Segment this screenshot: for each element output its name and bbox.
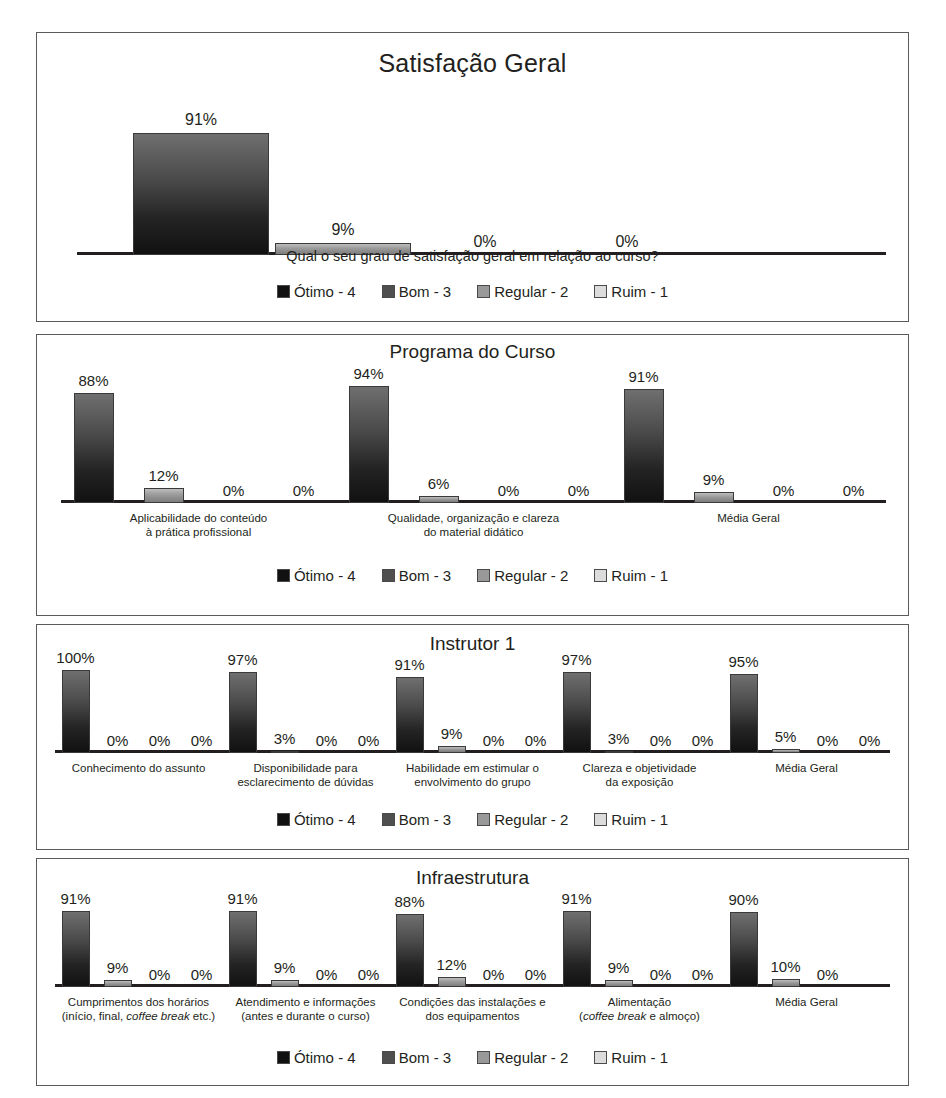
legend-item[interactable]: Ruim - 1 [594, 283, 668, 300]
bar-item: 91% [396, 655, 424, 753]
bar-value-label: 88% [394, 893, 424, 910]
bars: 94%6%0%0% [349, 363, 599, 503]
chart-title: Instrutor 1 [37, 633, 908, 655]
legend-item[interactable]: Regular - 2 [477, 1049, 568, 1066]
bar-item: 97% [229, 655, 257, 753]
bar-value-label: 0% [692, 966, 714, 983]
bar [104, 980, 132, 987]
chart-caption: Qual o seu grau de satisfação geral em r… [37, 248, 908, 264]
legend-item[interactable]: Regular - 2 [477, 811, 568, 828]
legend-item[interactable]: Bom - 3 [382, 567, 452, 584]
legend-label: Ruim - 1 [611, 1049, 668, 1066]
bars: 91%9%0%0% [563, 889, 717, 987]
bar-groups: 91%9%0%0%91%9%0%0%88%12%0%0%91%9%0%0%90%… [55, 889, 890, 987]
bar [229, 672, 257, 753]
legend-label: Ruim - 1 [611, 811, 668, 828]
bar [74, 393, 114, 503]
bar-value-label: 0% [316, 732, 338, 749]
legend-swatch-icon [277, 569, 290, 582]
legend-label: Ótimo - 4 [294, 1049, 356, 1066]
bar [349, 386, 389, 504]
legend-item[interactable]: Ótimo - 4 [277, 1049, 356, 1066]
bar-group: 91%9%0%0% [563, 889, 717, 987]
legend-item[interactable]: Ruim - 1 [594, 567, 668, 584]
bar-group: 94%6%0%0% [349, 363, 599, 503]
bar-value-label: 90% [728, 891, 758, 908]
legend-label: Bom - 3 [399, 811, 452, 828]
legend-item[interactable]: Bom - 3 [382, 1049, 452, 1066]
bar-item: 9% [104, 889, 132, 987]
bar-group: 88%12%0%0% [396, 889, 550, 987]
chart-legend: Ótimo - 4Bom - 3Regular - 2Ruim - 1 [37, 811, 908, 828]
bar-item: 94% [349, 363, 389, 503]
bar-value-label: 12% [148, 467, 178, 484]
legend-item[interactable]: Ótimo - 4 [277, 283, 356, 300]
legend-item[interactable]: Ruim - 1 [594, 1049, 668, 1066]
bar-value-label: 9% [441, 725, 463, 742]
bar-item: 0% [814, 655, 842, 753]
bar [624, 389, 664, 503]
bar-item: 9% [271, 889, 299, 987]
bar-group: 90%10%0% [730, 889, 884, 987]
bar-value-label: 91% [561, 890, 591, 907]
bars: 91%9%0%0% [396, 655, 550, 753]
chart-panel-satisfacao-geral: Satisfação Geral 91%9%0%0% Qual o seu gr… [36, 32, 909, 322]
legend-label: Ótimo - 4 [294, 567, 356, 584]
bar-item: 0% [559, 105, 695, 255]
bar-item: 88% [396, 889, 424, 987]
legend-swatch-icon [594, 569, 607, 582]
bar [772, 979, 800, 987]
bar [396, 914, 424, 987]
x-axis-label: Disponibilidade paraesclarecimento de dú… [229, 761, 383, 789]
bar-value-label: 9% [608, 959, 630, 976]
x-axis-label: Condições das instalações edos equipamen… [396, 995, 550, 1023]
legend-item[interactable]: Bom - 3 [382, 811, 452, 828]
bar-item: 0% [188, 889, 216, 987]
bar [563, 911, 591, 987]
bar-item: 0% [417, 105, 553, 255]
bar-groups: 91%9%0%0% [77, 105, 886, 255]
chart-panel-infraestrutura: Infraestrutura 91%9%0%0%91%9%0%0%88%12%0… [36, 858, 909, 1086]
bars: 95%5%0%0% [730, 655, 884, 753]
bar-value-label: 91% [227, 890, 257, 907]
legend-swatch-icon [382, 813, 395, 826]
bar-item: 0% [355, 889, 383, 987]
bar-group: 97%3%0%0% [229, 655, 383, 753]
legend-item[interactable]: Regular - 2 [477, 567, 568, 584]
legend-item[interactable]: Ruim - 1 [594, 811, 668, 828]
bar-item: 0% [355, 655, 383, 753]
legend-item[interactable]: Ótimo - 4 [277, 811, 356, 828]
legend-item[interactable]: Bom - 3 [382, 283, 452, 300]
legend-swatch-icon [594, 813, 607, 826]
bar-value-label: 0% [223, 482, 245, 499]
bar-item: 3% [605, 655, 633, 753]
legend-label: Bom - 3 [399, 283, 452, 300]
x-axis-label: Alimentação(coffee break e almoço) [563, 995, 717, 1023]
bars: 90%10%0% [730, 889, 884, 987]
bar-value-label: 0% [817, 732, 839, 749]
bar-group: 88%12%0%0% [74, 363, 324, 503]
bar-value-label: 0% [817, 966, 839, 983]
legend-item[interactable]: Ótimo - 4 [277, 567, 356, 584]
bar-item: 88% [74, 363, 114, 503]
bar [271, 980, 299, 987]
legend-item[interactable]: Regular - 2 [477, 283, 568, 300]
bar-value-label: 0% [191, 732, 213, 749]
bar-value-label: 12% [436, 956, 466, 973]
bar-group: 100%0%0%0% [62, 655, 216, 753]
bar-item: 10% [772, 889, 800, 987]
x-axis-label: Qualidade, organização e clarezado mater… [349, 511, 599, 539]
chart-title: Infraestrutura [37, 867, 908, 889]
bars: 91%9%0%0% [133, 105, 695, 255]
legend-swatch-icon [277, 285, 290, 298]
bar [419, 496, 459, 504]
bar-item: 0% [146, 889, 174, 987]
bar-item: 0% [522, 889, 550, 987]
bar-value-label: 0% [843, 482, 865, 499]
bars: 88%12%0%0% [396, 889, 550, 987]
bar-item: 12% [438, 889, 466, 987]
bar-value-label: 100% [56, 649, 94, 666]
bar-group: 91%9%0%0% [396, 655, 550, 753]
bars: 100%0%0%0% [62, 655, 216, 753]
bar-item: 91% [62, 889, 90, 987]
